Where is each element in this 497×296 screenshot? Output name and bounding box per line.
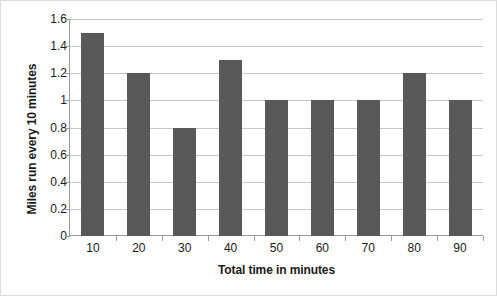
bar [173,128,196,237]
bar [311,100,334,236]
x-tick-label: 20 [116,241,162,255]
x-tick-label: 50 [254,241,300,255]
x-tick-mark [483,236,484,241]
x-axis-title: Total time in minutes [70,263,483,277]
y-axis-tick-labels: 00.20.40.60.811.21.41.6 [39,19,67,236]
bar [449,100,472,236]
bar [81,33,104,236]
y-tick-label: 0 [39,230,67,242]
y-tick-label: 1.2 [39,67,67,79]
bar [127,73,150,236]
bar [265,100,288,236]
x-axis-tick-labels: 102030405060708090 [70,241,483,257]
y-tick-label: 0.6 [39,149,67,161]
x-tick-label: 70 [345,241,391,255]
bar [219,60,242,236]
x-tick-label: 90 [437,241,483,255]
y-tick-label: 0.8 [39,122,67,134]
y-tick-label: 1 [39,94,67,106]
x-tick-label: 80 [391,241,437,255]
x-tick-label: 40 [208,241,254,255]
y-tick-label: 0.4 [39,176,67,188]
plot-area [70,19,483,236]
x-tick-label: 10 [70,241,116,255]
x-tick-label: 30 [162,241,208,255]
bar [357,100,380,236]
y-tick-label: 1.6 [39,13,67,25]
y-tick-label: 0.2 [39,203,67,215]
bar-chart-figure: Miles run every 10 minutes 00.20.40.60.8… [0,0,497,296]
y-tick-label: 1.4 [39,40,67,52]
bar [403,73,426,236]
x-tick-label: 60 [299,241,345,255]
bar-series [70,19,483,236]
